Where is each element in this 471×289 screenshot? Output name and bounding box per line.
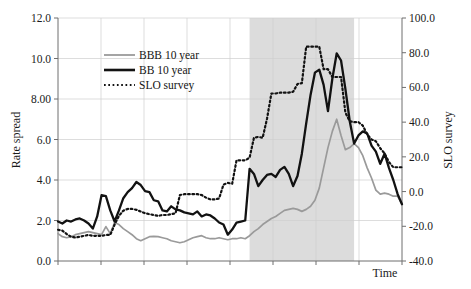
left-tick-label: 2.0 xyxy=(37,215,52,227)
legend-label-bbb-10-year: BBB 10 year xyxy=(139,49,199,62)
legend-label-bb-10-year: BB 10 year xyxy=(139,64,192,77)
left-axis-tick-labels: 12.010.08.006.04.02.00.0 xyxy=(31,12,51,267)
x-axis-title: Time xyxy=(373,266,398,280)
left-tick-label: 0.0 xyxy=(37,255,52,267)
left-axis-ticks xyxy=(54,18,58,261)
line-chart: 12.010.08.006.04.02.00.0 100.080.060.040… xyxy=(0,0,471,289)
legend-label-slo-survey: SLO survey xyxy=(139,79,195,92)
left-tick-label: 6.0 xyxy=(37,134,52,146)
right-tick-label: 0.0 xyxy=(409,186,424,198)
right-tick-label: -20.0 xyxy=(409,220,433,232)
right-tick-label: 20.0 xyxy=(409,151,429,163)
right-axis-title: SLO survey xyxy=(441,111,455,169)
chart-figure: 12.010.08.006.04.02.00.0 100.080.060.040… xyxy=(0,0,471,289)
right-axis-tick-labels: 100.080.060.040.020.00.0-20.0-40.0 xyxy=(409,12,435,267)
right-tick-label: 60.0 xyxy=(409,81,429,93)
left-tick-label: 8.00 xyxy=(31,93,51,105)
right-tick-label: 80.0 xyxy=(409,47,429,59)
right-axis-ticks xyxy=(402,18,406,261)
chart-legend: BBB 10 year BB 10 year SLO survey xyxy=(104,49,199,92)
left-tick-label: 10.0 xyxy=(31,53,51,65)
right-tick-label: 40.0 xyxy=(409,116,429,128)
left-axis-title: Rate spread xyxy=(9,112,23,168)
x-axis-ticks xyxy=(58,261,402,265)
left-tick-label: 4.0 xyxy=(37,174,52,186)
left-tick-label: 12.0 xyxy=(31,12,51,24)
right-tick-label: -40.0 xyxy=(409,255,433,267)
right-tick-label: 100.0 xyxy=(409,12,435,24)
